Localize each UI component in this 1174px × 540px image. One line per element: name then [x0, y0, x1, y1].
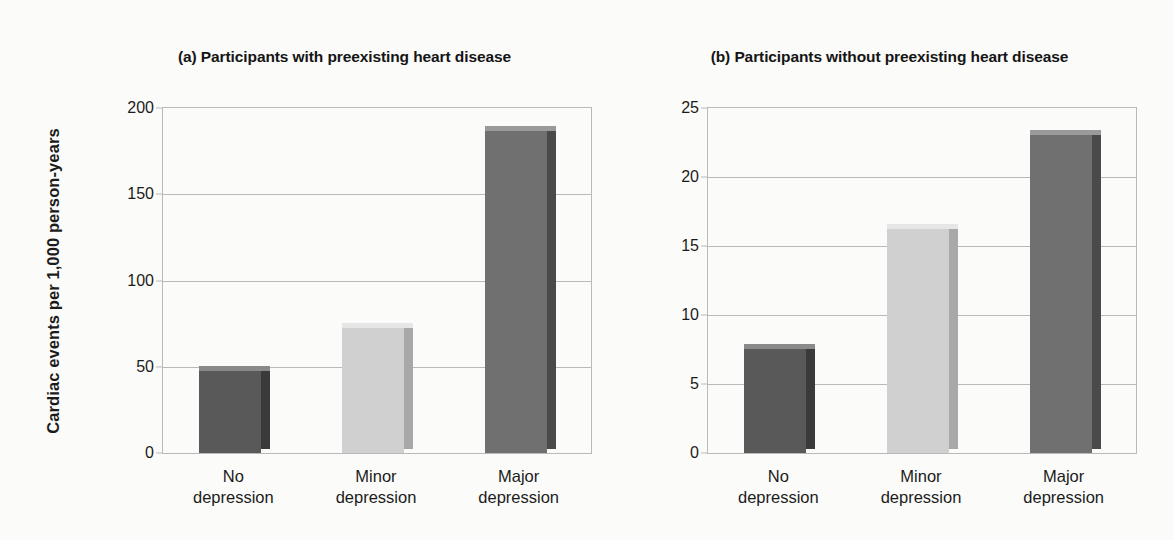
bar-top-face — [887, 224, 949, 229]
figure-canvas: Cardiac events per 1,000 person-years (a… — [0, 0, 1174, 540]
y-axis-tick-mark — [156, 453, 163, 454]
x-axis-category-label: Minordepression — [296, 466, 456, 508]
bar-side-face — [806, 344, 815, 449]
bar-top-bevel — [404, 323, 413, 328]
bar — [744, 348, 806, 453]
panel-b-plot-area: 0510152025 — [707, 107, 1137, 454]
y-axis-tick-label: 0 — [145, 444, 154, 462]
category-label-line: depression — [296, 487, 456, 508]
y-axis-tick-mark — [156, 194, 163, 195]
y-axis-label-container: Cardiac events per 1,000 person-years — [36, 96, 70, 466]
y-axis-tick-label: 100 — [127, 272, 154, 290]
y-axis-label: Cardiac events per 1,000 person-years — [44, 128, 63, 433]
chart-panel-a: (a) Participants with preexisting heart … — [72, 0, 617, 540]
y-axis-tick-mark — [156, 108, 163, 109]
bar-top-face — [744, 344, 806, 349]
bar-side-face — [1092, 130, 1101, 449]
x-axis-category-label: Majordepression — [984, 466, 1144, 508]
bar-top-face — [485, 126, 547, 131]
bar — [485, 130, 547, 453]
y-axis-tick-label: 20 — [681, 168, 699, 186]
x-axis-category-label: Minordepression — [841, 466, 1001, 508]
y-axis-tick-mark — [701, 177, 708, 178]
bar-front-face — [1030, 134, 1092, 453]
y-axis-tick-label: 50 — [136, 358, 154, 376]
bar-front-face — [485, 130, 547, 453]
y-axis-tick-label: 200 — [127, 99, 154, 117]
bar-top-face — [199, 366, 261, 371]
bar-side-face — [547, 126, 556, 449]
category-label-line: depression — [698, 487, 858, 508]
chart-panel-b: (b) Participants without preexisting hea… — [617, 0, 1162, 540]
category-label-line: No — [698, 466, 858, 487]
bar — [199, 370, 261, 453]
bar-top-bevel — [261, 366, 270, 371]
y-axis-tick-mark — [156, 366, 163, 367]
y-axis-tick-label: 5 — [690, 375, 699, 393]
bar-top-bevel — [949, 224, 958, 229]
x-axis-category-label: Nodepression — [153, 466, 313, 508]
y-axis-tick-label: 25 — [681, 99, 699, 117]
bar-top-face — [342, 323, 404, 328]
bar-side-face — [949, 224, 958, 449]
y-axis-tick-label: 150 — [127, 185, 154, 203]
bar-front-face — [744, 348, 806, 453]
panel-a-plot-area: 050100150200 — [162, 107, 592, 454]
bar — [887, 228, 949, 453]
x-axis-category-label: Majordepression — [439, 466, 599, 508]
bar-front-face — [887, 228, 949, 453]
category-label-line: depression — [153, 487, 313, 508]
panel-b-title: (b) Participants without preexisting hea… — [617, 48, 1162, 66]
y-axis-tick-label: 0 — [690, 444, 699, 462]
category-label-line: Minor — [296, 466, 456, 487]
bar-side-face — [404, 323, 413, 449]
y-axis-tick-mark — [701, 453, 708, 454]
y-axis-tick-mark — [701, 384, 708, 385]
bar — [342, 327, 404, 453]
category-label-line: depression — [984, 487, 1144, 508]
bar-top-bevel — [1092, 130, 1101, 135]
category-label-line: Major — [984, 466, 1144, 487]
y-axis-tick-label: 15 — [681, 237, 699, 255]
bar — [1030, 134, 1092, 453]
panel-a-title: (a) Participants with preexisting heart … — [72, 48, 617, 66]
category-label-line: Major — [439, 466, 599, 487]
bar-top-bevel — [547, 126, 556, 131]
bar-side-face — [261, 366, 270, 449]
bar-top-face — [1030, 130, 1092, 135]
y-axis-tick-mark — [701, 315, 708, 316]
category-label-line: Minor — [841, 466, 1001, 487]
bar-front-face — [199, 370, 261, 453]
category-label-line: No — [153, 466, 313, 487]
y-axis-tick-mark — [701, 246, 708, 247]
category-label-line: depression — [439, 487, 599, 508]
y-axis-tick-mark — [701, 108, 708, 109]
bar-top-bevel — [806, 344, 815, 349]
y-axis-tick-mark — [156, 280, 163, 281]
category-label-line: depression — [841, 487, 1001, 508]
bar-front-face — [342, 327, 404, 453]
x-axis-category-label: Nodepression — [698, 466, 858, 508]
y-axis-tick-label: 10 — [681, 306, 699, 324]
